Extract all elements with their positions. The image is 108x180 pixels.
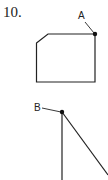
point-a-leader [85, 22, 94, 33]
figure-2-angle [42, 108, 108, 180]
point-b-leader [42, 108, 61, 112]
point-b-dot [60, 110, 64, 114]
angle-diagonal-ray [62, 112, 108, 175]
diagram-canvas [0, 0, 108, 180]
figure-1-polygon [37, 22, 98, 82]
point-a-dot [93, 32, 97, 36]
